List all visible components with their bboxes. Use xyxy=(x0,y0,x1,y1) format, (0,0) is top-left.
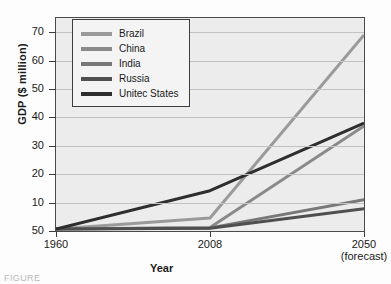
legend-item-brazil[interactable]: Brazil xyxy=(81,26,189,41)
gridline xyxy=(56,174,364,175)
legend-label: China xyxy=(119,43,145,54)
legend-swatch xyxy=(81,47,112,51)
x-tick-mark xyxy=(56,232,57,237)
legend-label: Brazil xyxy=(119,28,144,39)
legend-item-unitec-states[interactable]: Unitec States xyxy=(81,86,189,101)
y-tick-mark xyxy=(49,117,55,118)
y-tick-mark xyxy=(49,203,55,204)
y-tick-label: 10 xyxy=(4,196,44,208)
y-tick-mark xyxy=(49,146,55,147)
legend-swatch xyxy=(81,62,112,66)
series-line-unitec-states xyxy=(56,123,364,229)
legend-label: Russia xyxy=(119,73,150,84)
legend-label: India xyxy=(119,58,141,69)
x-tick-label: 2050(forecast) xyxy=(319,238,391,262)
y-tick-label: 40 xyxy=(4,110,44,122)
x-tick-label: 1960 xyxy=(11,238,101,250)
y-tick-label: 50 xyxy=(4,224,44,236)
y-tick-label: 70 xyxy=(4,25,44,37)
gridline xyxy=(56,146,364,147)
y-tick-mark xyxy=(49,89,55,90)
x-tick-mark xyxy=(364,232,365,237)
legend-swatch xyxy=(81,77,112,81)
y-tick-label: 50 xyxy=(4,82,44,94)
y-tick-label: 60 xyxy=(4,54,44,66)
legend-label: Unitec States xyxy=(119,88,178,99)
legend-item-china[interactable]: China xyxy=(81,41,189,56)
legend-swatch xyxy=(81,32,112,36)
y-tick-mark xyxy=(49,174,55,175)
y-tick-mark xyxy=(49,61,55,62)
x-tick-mark xyxy=(210,232,211,237)
y-tick-mark xyxy=(49,231,55,232)
figure-container: GDP ($ million) 5010203040506070 1960200… xyxy=(0,0,391,284)
y-tick-label: 20 xyxy=(4,167,44,179)
chart-legend: BrazilChinaIndiaRussiaUnitec States xyxy=(72,19,190,107)
y-tick-label: 30 xyxy=(4,139,44,151)
x-tick-label: 2008 xyxy=(165,238,255,250)
gridline xyxy=(56,203,364,204)
y-tick-mark xyxy=(49,32,55,33)
legend-item-india[interactable]: India xyxy=(81,56,189,71)
legend-item-russia[interactable]: Russia xyxy=(81,71,189,86)
figure-caption: FIGURE xyxy=(4,273,154,283)
legend-swatch xyxy=(81,92,112,96)
gridline xyxy=(56,117,364,118)
